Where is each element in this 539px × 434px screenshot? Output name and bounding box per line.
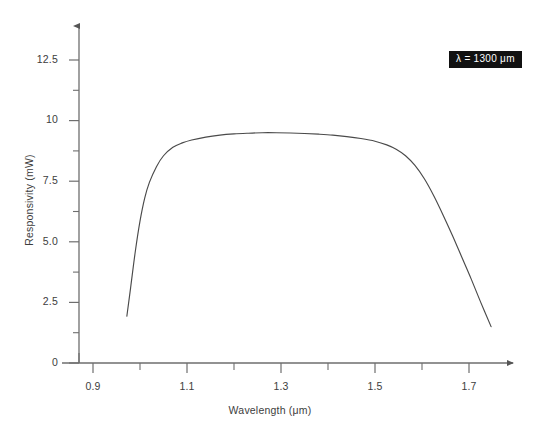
y-tick-label-0: 0 [52, 356, 58, 368]
y-axis-title: Responsivity (mW) [23, 154, 35, 246]
y-tick-label-12_5: 12.5 [37, 53, 58, 65]
x-tick-label-0_9: 0.9 [85, 380, 100, 392]
x-tick-label-1_5: 1.5 [367, 380, 382, 392]
wavelength-annotation-badge: λ = 1300 μm [449, 51, 522, 68]
y-axis-minor-ticks [73, 90, 79, 332]
y-tick-label-7_5: 7.5 [43, 174, 58, 186]
responsivity-curve [127, 133, 491, 327]
x-tick-label-1_7: 1.7 [461, 380, 476, 392]
x-axis-major-ticks [93, 363, 469, 373]
responsivity-chart-figure: Responsivity (mW) 0 2.5 5.0 7.5 10 12.5 … [0, 0, 539, 434]
y-tick-label-5_0: 5.0 [43, 235, 58, 247]
y-tick-label-10: 10 [46, 113, 58, 125]
x-axis-title: Wavelength (μm) [229, 404, 312, 416]
x-tick-label-1_1: 1.1 [179, 380, 194, 392]
x-tick-label-1_3: 1.3 [273, 380, 288, 392]
y-tick-label-2_5: 2.5 [43, 295, 58, 307]
